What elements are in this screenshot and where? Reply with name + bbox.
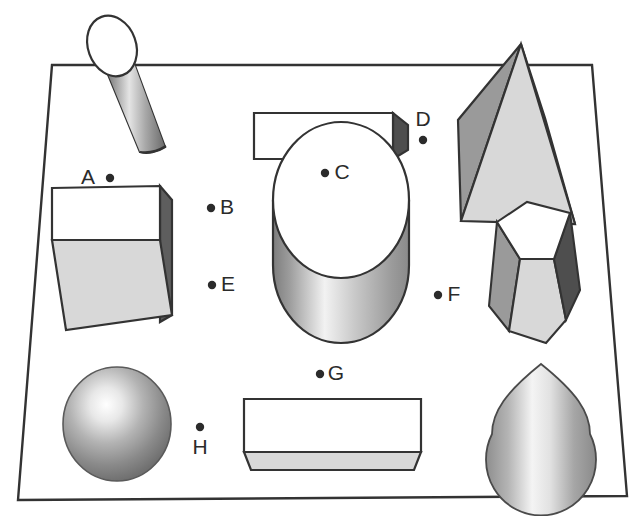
- label-G-dot: [316, 370, 324, 378]
- flat-box-front-strip: [244, 452, 421, 470]
- label-F-letter: F: [448, 282, 461, 305]
- label-H-dot: [196, 423, 204, 431]
- label-E-letter: E: [221, 272, 235, 295]
- shape-upright-cylinder[interactable]: [273, 122, 409, 343]
- shape-cube[interactable]: [52, 186, 172, 330]
- cube-front-face: [52, 186, 160, 240]
- label-B-dot: [207, 204, 215, 212]
- label-C-letter: C: [334, 160, 349, 183]
- sphere-body: [63, 367, 171, 481]
- upright-cylinder-top-ellipse: [273, 122, 409, 278]
- label-G-letter: G: [328, 361, 344, 384]
- label-A-dot: [106, 174, 114, 182]
- label-A-letter: A: [81, 165, 95, 188]
- label-C-dot: [321, 169, 329, 177]
- cube-lower-face: [52, 240, 172, 330]
- label-B-letter: B: [220, 195, 234, 218]
- label-H-letter: H: [192, 435, 207, 458]
- label-D-dot: [419, 136, 427, 144]
- label-D-letter: D: [415, 107, 430, 130]
- shape-flat-box[interactable]: [244, 399, 421, 470]
- flat-box-top-face: [244, 399, 421, 452]
- label-E-dot: [208, 281, 216, 289]
- shape-sphere[interactable]: [63, 367, 171, 481]
- label-F-dot: [434, 291, 442, 299]
- shapes-scene: A B C D E: [0, 0, 643, 516]
- scene-canvas: A B C D E: [0, 0, 643, 516]
